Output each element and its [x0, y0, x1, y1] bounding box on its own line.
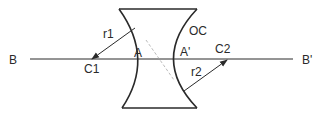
label-A-prime: A' [180, 45, 190, 59]
label-B-prime: B' [302, 53, 312, 67]
lens-diagram: B B' C1 C2 A A' r1 r2 OC [0, 0, 323, 118]
label-C2: C2 [215, 42, 231, 56]
label-r2: r2 [191, 65, 202, 79]
label-r1: r1 [103, 27, 114, 41]
label-B: B [9, 53, 17, 67]
thickness-dashed-line [146, 40, 174, 80]
label-OC: OC [189, 24, 207, 38]
diagram-canvas: B B' C1 C2 A A' r1 r2 OC [0, 0, 323, 118]
label-C1: C1 [84, 62, 100, 76]
label-A: A [134, 46, 142, 60]
